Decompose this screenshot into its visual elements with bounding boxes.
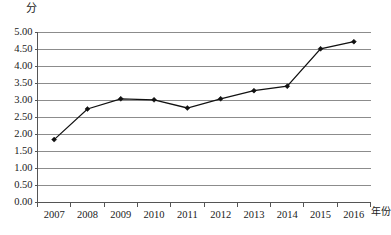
data-point-marker <box>152 97 157 102</box>
y-axis-tick-labels: 0.000.501.001.502.002.503.003.504.004.50… <box>14 26 32 207</box>
data-point-marker <box>251 88 256 93</box>
y-axis-tick-label: 0.00 <box>14 196 32 207</box>
data-point-markers <box>52 39 357 142</box>
chart-plot-area: 0.000.501.001.502.002.503.003.504.004.50… <box>0 0 391 235</box>
x-axis-tick-label: 2016 <box>343 209 364 220</box>
x-axis-tick-label: 2007 <box>44 209 65 220</box>
gridlines-group <box>35 33 371 203</box>
y-axis-tick-label: 4.50 <box>14 43 32 54</box>
y-axis-tick-label: 3.50 <box>14 77 32 88</box>
y-axis-tick-label: 0.50 <box>14 179 32 190</box>
y-axis-tick-label: 2.50 <box>14 111 32 122</box>
x-axis-tick-label: 2013 <box>243 209 264 220</box>
x-axis-tick-labels: 2007200820092010201120122013201420152016 <box>44 209 365 220</box>
x-axis-tick-label: 2009 <box>110 209 131 220</box>
x-axis-tick-label: 2008 <box>77 209 98 220</box>
y-axis-tick-label: 1.50 <box>14 145 32 156</box>
y-axis-tick-label: 1.00 <box>14 162 32 173</box>
x-axis-tick-label: 2015 <box>310 209 331 220</box>
x-axis-tick-label: 2010 <box>144 209 165 220</box>
data-series-line <box>54 42 354 140</box>
line-chart-figure: 分 年份 0.000.501.001.502.002.503.003.504.0… <box>0 0 391 235</box>
data-point-marker <box>351 39 356 44</box>
data-point-marker <box>185 105 190 110</box>
x-axis-tick-label: 2014 <box>277 209 299 220</box>
y-axis-tick-label: 2.00 <box>14 128 32 139</box>
y-axis-tick-label: 5.00 <box>14 26 32 37</box>
x-axis-tick-marks <box>38 203 371 207</box>
series-polyline <box>54 42 354 140</box>
y-axis-tick-label: 3.00 <box>14 94 32 105</box>
x-axis-tick-label: 2011 <box>177 209 198 220</box>
y-axis-tick-label: 4.00 <box>14 60 32 71</box>
x-axis-tick-label: 2012 <box>210 209 231 220</box>
